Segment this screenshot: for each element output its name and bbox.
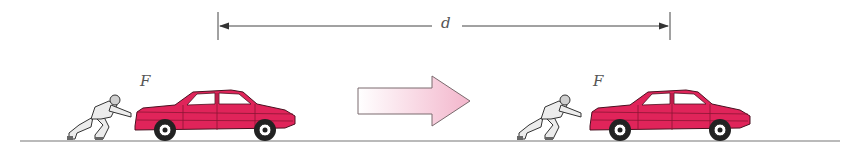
force-label-end: F bbox=[593, 72, 603, 90]
force-label-start: F bbox=[140, 72, 150, 90]
distance-label: d bbox=[441, 14, 451, 32]
person-pushing-car-end bbox=[517, 90, 750, 141]
person-pushing-car-start bbox=[67, 90, 295, 141]
direction-arrow-icon bbox=[358, 76, 470, 126]
diagram-canvas bbox=[0, 0, 845, 154]
